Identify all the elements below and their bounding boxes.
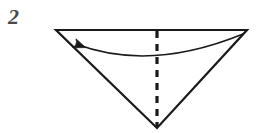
origami-figure: 2	[0, 0, 269, 133]
paper-triangle-outline	[56, 30, 247, 128]
fold-diagram-svg	[0, 0, 269, 133]
